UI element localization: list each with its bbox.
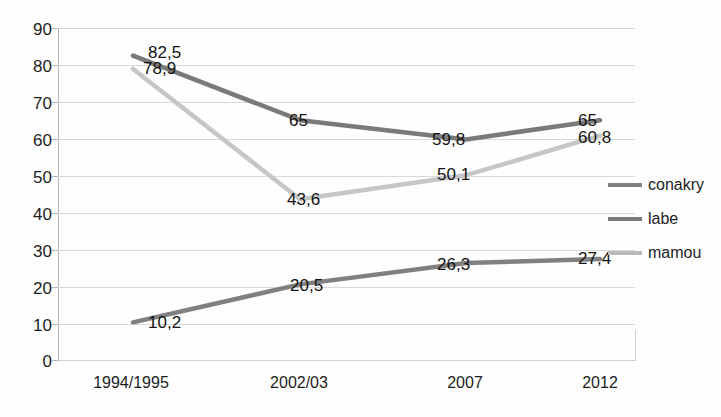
legend-item-mamou[interactable]: mamou: [608, 236, 718, 270]
legend-swatch-mamou: [608, 251, 642, 255]
plot-frame-right: [635, 330, 636, 361]
data-label-conakry-1994: 10,2: [148, 314, 181, 331]
data-label-conakry-2007: 26,3: [437, 256, 470, 273]
legend-label-conakry: conakry: [648, 177, 704, 193]
data-label-mamou-1994: 78,9: [143, 60, 176, 77]
y-tick-label-50: 50: [12, 169, 52, 186]
y-tick-label-10: 10: [12, 317, 52, 334]
legend-item-conakry[interactable]: conakry: [608, 168, 718, 202]
y-tick-label-80: 80: [12, 58, 52, 75]
data-label-labe-2002: 65: [289, 112, 308, 129]
data-label-conakry-2012: 27,4: [578, 250, 611, 267]
data-label-mamou-2012: 60,8: [578, 129, 611, 146]
y-tick-label-90: 90: [12, 21, 52, 38]
legend-swatch-conakry: [608, 183, 642, 187]
series-line-mamou: [133, 69, 600, 199]
y-tick-label-60: 60: [12, 132, 52, 149]
data-label-conakry-2002: 20,5: [290, 277, 323, 294]
x-tick-label-2012: 2012: [540, 375, 660, 391]
x-tick-label-2002-03: 2002/03: [239, 375, 359, 391]
legend-label-labe: labe: [648, 211, 678, 227]
y-tick-label-20: 20: [12, 280, 52, 297]
x-tick-label-1994-1995: 1994/1995: [71, 375, 191, 391]
data-label-labe-2007: 59,8: [432, 131, 465, 148]
x-tick-label-2007: 2007: [405, 375, 525, 391]
legend: conakry labe mamou: [608, 168, 718, 270]
series-line-conakry: [133, 259, 600, 322]
y-tick-label-70: 70: [12, 95, 52, 112]
data-label-mamou-2002: 43,6: [287, 191, 320, 208]
y-tick-label-0: 0: [12, 353, 52, 370]
x-axis-line: [58, 360, 636, 361]
line-chart: 90 80 70 60 50 40 30 20 10 0 1994/1995 2…: [0, 0, 721, 417]
legend-swatch-labe: [608, 217, 642, 221]
legend-label-mamou: mamou: [648, 245, 701, 261]
y-tick-label-40: 40: [12, 206, 52, 223]
legend-item-labe[interactable]: labe: [608, 202, 718, 236]
data-label-mamou-2007: 50,1: [437, 166, 470, 183]
series-line-labe: [133, 56, 600, 140]
data-label-labe-2012: 65: [578, 112, 597, 129]
y-tick-label-30: 30: [12, 243, 52, 260]
